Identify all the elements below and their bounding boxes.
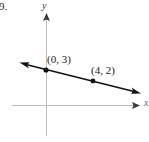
point-label-0-3: (0, 3) — [47, 54, 71, 65]
point-label-4-2: (4, 2) — [91, 65, 115, 76]
plotted-line — [24, 64, 136, 92]
x-axis-label: x — [144, 98, 148, 108]
graph-figure: 9. y x (0, 3) (4, 2) — [0, 0, 149, 142]
plotted-point-1 — [91, 79, 96, 84]
plotted-point-0 — [43, 67, 48, 72]
axes-group — [12, 13, 140, 136]
y-axis-label: y — [42, 1, 46, 11]
coordinate-plane-svg — [0, 0, 149, 142]
problem-number: 9. — [0, 1, 7, 12]
plotted-line-group — [20, 62, 142, 94]
